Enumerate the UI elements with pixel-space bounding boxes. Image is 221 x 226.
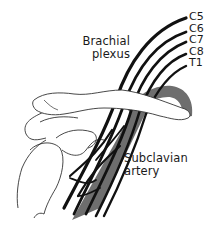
brachial-plexus-label-line1: Brachial [74, 35, 130, 48]
nerve-root-labels: C5 C6 C7 C8 T1 [189, 11, 204, 69]
subclavian-artery-label-line2: artery [124, 165, 188, 178]
brachial-plexus-diagram: Brachial plexus Subclavian artery C5 C6 … [0, 0, 221, 226]
nerve-root-t1: T1 [189, 57, 204, 69]
nerve-root-c5: C5 [189, 11, 204, 23]
subclavian-artery-label-line1: Subclavian [124, 152, 188, 165]
brachial-plexus-label-line2: plexus [74, 48, 130, 61]
brachial-plexus-label: Brachial plexus [74, 35, 130, 60]
subclavian-artery-label: Subclavian artery [124, 152, 188, 177]
